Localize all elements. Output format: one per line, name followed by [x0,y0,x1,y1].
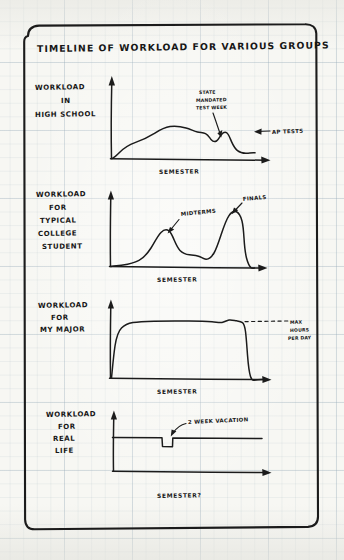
annotation-line-3: TEST WEEK [196,105,227,111]
caption-line-2: FOR [49,204,67,212]
caption-line-1: WORKLOAD [35,83,85,92]
max-hours-reference-line: MAX HOURS PER DAY [245,320,312,341]
panel-my-major: WORKLOAD FOR MY MAJOR MAX HOURS PER DAY … [38,300,312,395]
caption-line-5: STUDENT [42,242,83,251]
caption-line-1: WORKLOAD [38,301,88,310]
panel-real-life-x-axis [113,469,272,476]
panel-my-major-caption: WORKLOAD FOR MY MAJOR [38,301,88,334]
panel-college-student: WORKLOAD FOR TYPICAL COLLEGE STUDENT MID… [36,190,268,283]
reference-label-line-3: PER DAY [288,335,312,341]
caption-line-3: TYPICAL [40,216,77,225]
panel-high-school-x-label: SEMESTER [159,168,200,175]
comic-sheet: TIMELINE OF WORKLOAD FOR VARIOUS GROUPS … [0,0,344,560]
caption-line-1: WORKLOAD [46,410,96,419]
panel-high-school: WORKLOAD IN HIGH SCHOOL STATE MANDATED T… [35,76,304,175]
caption-line-2: FOR [58,423,76,431]
annotation-midterms: MIDTERMS [168,208,217,234]
annotation-finals: FINALS [232,194,267,214]
caption-line-4: LIFE [55,447,74,455]
panel-real-life-curve [113,438,263,447]
annotation-state-mandated-test-week: STATE MANDATED TEST WEEK [196,90,227,138]
panel-college-student-x-axis [110,264,268,271]
annotation-arrowhead [254,129,262,135]
reference-label-line-1: MAX [290,320,303,325]
panel-college-student-y-axis [108,191,114,267]
comic-title: TIMELINE OF WORKLOAD FOR VARIOUS GROUPS [37,39,330,54]
annotation-line-1: STATE [199,90,216,95]
annotation-label: FINALS [243,194,267,202]
annotation-label: 2 WEEK VACATION [188,416,249,425]
panel-my-major-x-label: SEMESTER [157,388,198,395]
caption-line-1: WORKLOAD [36,190,86,199]
panel-high-school-x-axis [111,157,271,164]
annotation-two-week-vacation: 2 WEEK VACATION [171,416,249,436]
annotation-arrowhead [171,430,177,437]
panel-high-school-curve [112,126,255,158]
caption-line-3: REAL [53,435,75,443]
annotation-label: MIDTERMS [181,208,217,217]
caption-line-3: HIGH SCHOOL [35,110,96,119]
panel-real-life-x-label: SEMESTER? [157,492,202,499]
panel-college-student-curve [111,211,255,268]
annotation-line-2: MANDATED [196,97,227,103]
panel-college-student-x-label: SEMESTER [157,276,198,283]
annotation-label: AP TESTS [272,128,304,135]
caption-line-3: MY MAJOR [40,325,85,334]
panel-real-life-y-axis [111,411,117,472]
panel-my-major-curve [112,320,263,380]
panel-high-school-caption: WORKLOAD IN HIGH SCHOOL [35,83,96,119]
annotation-ap-tests: AP TESTS [254,128,304,135]
caption-line-2: FOR [51,314,69,322]
panel-my-major-x-axis [110,376,272,383]
panel-real-life: WORKLOAD FOR REAL LIFE 2 WEEK VACATION S… [46,410,272,499]
panel-real-life-caption: WORKLOAD FOR REAL LIFE [46,410,96,455]
panel-high-school-y-axis [109,76,115,159]
reference-label-line-2: HOURS [290,327,309,333]
caption-line-4: COLLEGE [38,229,77,238]
caption-line-2: IN [61,97,71,105]
annotation-leader-line [213,113,220,134]
panel-college-student-caption: WORKLOAD FOR TYPICAL COLLEGE STUDENT [36,190,86,251]
